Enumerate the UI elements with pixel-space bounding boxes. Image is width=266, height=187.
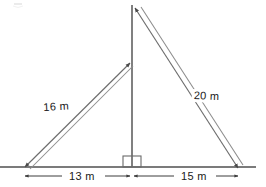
right-rope-length-label: 20 m [192,89,222,103]
left-rope-length-label: 16 m [41,99,71,114]
geometry-figure: 16 m 20 m 13 m 15 m [0,0,266,187]
scan-artifact [13,3,23,8]
left-guy-rope [25,63,133,169]
figure-canvas [0,0,266,187]
right-base-distance-label: 15 m [178,170,210,183]
right-guy-rope [135,7,243,168]
left-base-distance-label: 13 m [66,170,98,183]
